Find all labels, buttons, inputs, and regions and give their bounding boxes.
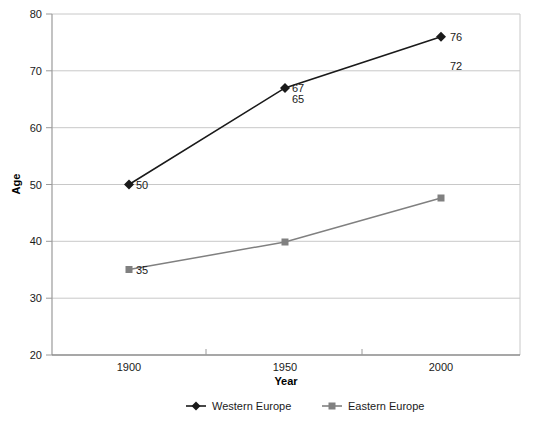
x-tick-label-2000: 2000 [429, 361, 453, 373]
chart-svg: 80 70 60 50 40 30 20 1900 1950 2000 Year… [0, 0, 540, 422]
x-tick-label-1950: 1950 [273, 361, 297, 373]
data-label-western-1900: 50 [136, 179, 148, 191]
data-point-eastern-2000 [438, 195, 445, 202]
line-chart: 80 70 60 50 40 30 20 1900 1950 2000 Year… [0, 0, 540, 422]
data-label-eastern-1950: 65 [292, 93, 304, 105]
data-point-eastern-1900 [126, 266, 133, 273]
legend-label-western-europe: Western Europe [212, 400, 291, 412]
data-label-western-2000: 76 [450, 31, 462, 43]
y-tick-label-40: 40 [30, 235, 42, 247]
data-label-eastern-1900: 35 [136, 264, 148, 276]
legend-marker-square-icon [329, 403, 336, 410]
legend-label-eastern-europe: Eastern Europe [348, 400, 424, 412]
y-tick-label-20: 20 [30, 349, 42, 361]
y-tick-label-30: 30 [30, 292, 42, 304]
y-axis-title: Age [10, 174, 22, 195]
y-tick-label-70: 70 [30, 65, 42, 77]
x-axis-title: Year [274, 375, 298, 387]
y-tick-label-50: 50 [30, 179, 42, 191]
y-tick-label-80: 80 [30, 8, 42, 20]
data-point-eastern-1950 [282, 239, 289, 246]
y-tick-label-60: 60 [30, 122, 42, 134]
data-label-eastern-2000: 72 [450, 60, 462, 72]
x-tick-label-1900: 1900 [117, 361, 141, 373]
